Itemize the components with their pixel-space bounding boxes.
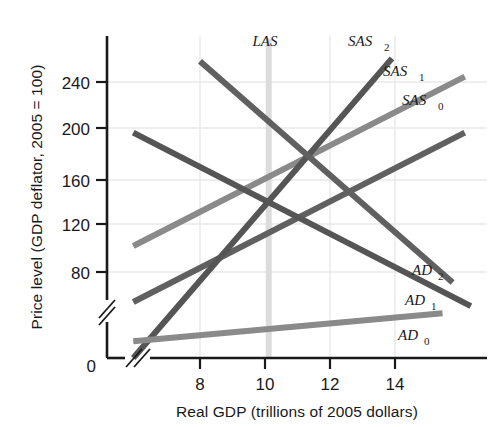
x-axis-title: Real GDP (trillions of 2005 dollars)	[176, 403, 418, 420]
y-tick-label-80: 80	[71, 264, 90, 283]
x-tick-label-8: 8	[195, 375, 204, 394]
y-tick-label-160: 160	[62, 172, 90, 191]
x-tick-label-10: 10	[256, 375, 275, 394]
sas0-label: SAS 0	[402, 92, 444, 112]
las-label: LAS	[251, 33, 278, 49]
ad0-curve[interactable]	[133, 313, 442, 341]
ad0-label: AD 0	[397, 327, 430, 347]
sas0-label-base: SAS	[402, 92, 427, 108]
ad0-label-base: AD	[397, 327, 418, 343]
horizontal-gridlines	[107, 82, 487, 272]
sas1-label-sub: 1	[419, 71, 425, 83]
ad1-label-base: AD	[404, 292, 425, 308]
x-tick-label-14: 14	[386, 375, 405, 394]
as-ad-chart: 240 200 160 120 80 0 8 10 12 14 Real GDP…	[0, 0, 501, 427]
sas1-label-base: SAS	[383, 63, 408, 79]
ad1-label: AD 1	[404, 292, 437, 312]
las-label-text: LAS	[251, 33, 278, 49]
sas1-label: SAS 1	[383, 63, 425, 83]
y-tick-label-120: 120	[62, 216, 90, 235]
sas0-label-sub: 0	[438, 100, 444, 112]
x-tick-label-12: 12	[321, 375, 340, 394]
ad2-label-base: AD	[411, 262, 432, 278]
origin-label: 0	[87, 357, 96, 376]
ad0-label-sub: 0	[424, 335, 430, 347]
y-ticks	[96, 82, 107, 272]
x-ticks	[200, 358, 395, 369]
sas2-label: SAS 2	[348, 33, 390, 53]
chart-canvas: 240 200 160 120 80 0 8 10 12 14 Real GDP…	[0, 0, 501, 427]
y-axis-break-icon	[99, 300, 115, 325]
ad1-label-sub: 1	[431, 300, 437, 312]
y-axis-title: Price level (GDP deflator, 2005 = 100)	[28, 64, 45, 329]
sas2-label-sub: 2	[384, 41, 390, 53]
ad2-label-sub: 2	[438, 270, 444, 282]
y-tick-label-240: 240	[62, 74, 90, 93]
y-tick-label-200: 200	[62, 120, 90, 139]
sas2-label-base: SAS	[348, 33, 373, 49]
sas2-curve[interactable]	[133, 58, 392, 358]
